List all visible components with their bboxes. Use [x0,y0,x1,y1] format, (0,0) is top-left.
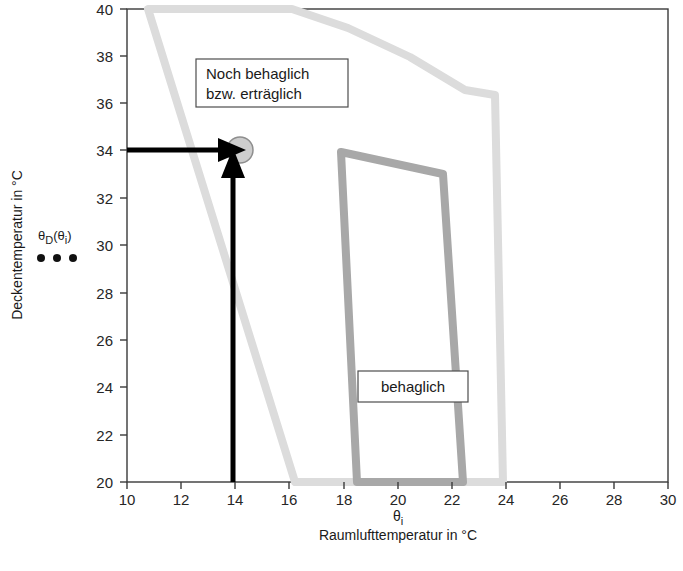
y-axis-title-text: Deckentemperatur in °C [9,170,25,320]
y-axis-tick-labels: 20 22 24 26 28 30 32 34 36 38 40 [96,1,113,491]
x-tick-label: 28 [606,491,623,508]
x-tick-label: 22 [444,491,461,508]
y-tick-label: 22 [96,427,113,444]
legend-subscript-d: D [45,234,53,246]
y-axis-title: Deckentemperatur in °C [9,170,25,320]
x-axis-subscript-i: i [401,515,403,527]
callout-behaglich: behaglich [358,371,468,402]
x-tick-label: 30 [660,491,677,508]
comfort-chart-figure: 10 12 14 16 18 20 22 24 26 28 30 [0,0,683,571]
x-tick-label: 14 [227,491,244,508]
legend-arg-close: ) [67,228,71,243]
callout-noch-behaglich-line2: bzw. erträglich [206,85,302,102]
y-tick-label: 26 [96,332,113,349]
y-tick-label: 38 [96,48,113,65]
y-axis-ticks [120,9,127,482]
y-tick-label: 32 [96,190,113,207]
x-axis-title: θi Raumlufttemperatur in °C [319,508,477,543]
x-tick-label: 20 [390,491,407,508]
legend-theta: θ [38,228,45,243]
x-axis-ticks [127,482,668,489]
y-tick-label: 24 [96,379,113,396]
callout-noch-behaglich: Noch behaglich bzw. erträglich [196,59,348,107]
callout-behaglich-text: behaglich [381,378,445,395]
y-tick-label: 28 [96,285,113,302]
x-tick-label: 26 [552,491,569,508]
chart-svg: 10 12 14 16 18 20 22 24 26 28 30 [0,0,683,571]
legend-symbol-text: θD(θi) [38,228,72,246]
legend-dot [69,254,77,262]
x-tick-label: 16 [281,491,298,508]
legend-dot [53,254,61,262]
legend: θD(θi) [37,228,77,262]
x-tick-label: 18 [336,491,353,508]
y-tick-label: 34 [96,142,113,159]
legend-dotted-line-marker-icon [37,254,77,262]
x-axis-tick-labels: 10 12 14 16 18 20 22 24 26 28 30 [119,491,677,508]
x-axis-theta: θ [393,508,401,524]
x-tick-label: 24 [498,491,515,508]
y-tick-label: 36 [96,95,113,112]
y-tick-label: 40 [96,1,113,18]
legend-dot [37,254,45,262]
x-tick-label: 10 [119,491,136,508]
x-tick-label: 12 [173,491,190,508]
x-axis-symbol-text: θi [393,508,403,527]
legend-arg-open: (θ [53,228,65,243]
callout-noch-behaglich-line1: Noch behaglich [206,65,309,82]
y-tick-label: 30 [96,237,113,254]
x-axis-title-text: Raumlufttemperatur in °C [319,527,477,543]
y-tick-label: 20 [96,474,113,491]
